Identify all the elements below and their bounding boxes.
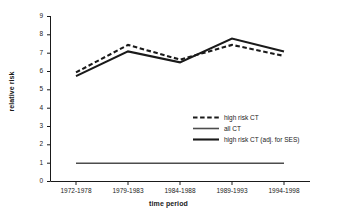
x-tick-label-1984-1988: 1984-1988 bbox=[150, 187, 210, 194]
series-line-high-risk-ct bbox=[76, 45, 284, 73]
x-axis-title: time period bbox=[0, 200, 337, 207]
y-axis-title: relative risk bbox=[8, 62, 15, 122]
y-tick-label-6: 6 bbox=[27, 67, 43, 74]
y-tick-label-9: 9 bbox=[27, 12, 43, 19]
x-tick-label-1972-1978: 1972-1978 bbox=[46, 187, 106, 194]
x-tick-label-1994-1998: 1994-1998 bbox=[254, 187, 314, 194]
legend-label-all-ct: all CT bbox=[224, 125, 241, 132]
x-axis-ticks bbox=[76, 182, 284, 186]
y-tick-label-3: 3 bbox=[27, 122, 43, 129]
legend-label-high-risk-ct: high risk CT bbox=[224, 114, 259, 121]
y-tick-label-1: 1 bbox=[27, 159, 43, 166]
x-tick-label-1979-1983: 1979-1983 bbox=[98, 187, 158, 194]
y-tick-label-7: 7 bbox=[27, 49, 43, 56]
y-tick-label-5: 5 bbox=[27, 85, 43, 92]
y-tick-label-2: 2 bbox=[27, 140, 43, 147]
relative-risk-line-chart: 0 1 2 3 4 5 6 7 8 9 1972-1978 1979-1983 … bbox=[0, 0, 337, 219]
y-tick-label-8: 8 bbox=[27, 30, 43, 37]
y-axis-ticks bbox=[47, 17, 51, 182]
y-tick-label-4: 4 bbox=[27, 104, 43, 111]
y-tick-label-0: 0 bbox=[27, 177, 43, 184]
series-line-high-risk-ct-adj-ses bbox=[76, 39, 284, 77]
legend-label-high-risk-ct-adj-ses: high risk CT (adj. for SES) bbox=[224, 136, 299, 143]
x-tick-label-1989-1993: 1989-1993 bbox=[202, 187, 262, 194]
